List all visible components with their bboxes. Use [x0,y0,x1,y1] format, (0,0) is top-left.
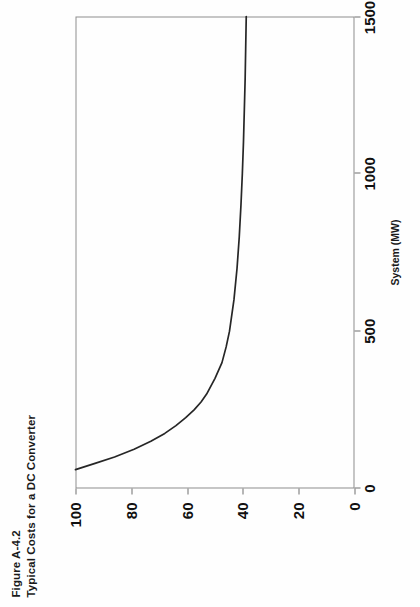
y-tick-40 [242,488,243,494]
x-tick-label-1500: 1500 [360,0,377,33]
y-axis-title: $ per Terminal Size [354,549,420,561]
x-tick-1500 [354,16,360,17]
x-tick-500 [354,330,360,331]
y-tick-100 [75,488,76,494]
scanned-page: Figure A-4.2 Typical Costs for a DC Conv… [0,0,420,607]
y-tick-label-100: 100 [67,502,84,527]
x-tick-1000 [354,172,360,173]
x-tick-label-0: 0 [360,484,377,492]
x-axis-title: System (MW) [388,16,400,488]
y-tick-label-20: 20 [290,502,307,519]
y-tick-label-40: 40 [234,502,251,519]
y-tick-label-80: 80 [122,502,139,519]
cost-curve [75,16,354,488]
figure-caption: Figure A-4.2 Typical Costs for a DC Conv… [8,414,37,597]
y-tick-20 [298,488,299,494]
x-tick-label-1000: 1000 [360,157,377,190]
figure-caption-line-1: Figure A-4.2 [8,414,23,597]
y-tick-label-60: 60 [178,502,195,519]
y-tick-label-0: 0 [346,502,363,510]
x-tick-label-500: 500 [360,318,377,343]
y-tick-60 [187,488,188,494]
y-tick-80 [131,488,132,494]
y-tick-0 [354,488,355,494]
figure-caption-line-2: Typical Costs for a DC Converter [23,414,38,597]
plot-area: 0 500 1000 1500 0 20 40 60 80 100 [75,16,354,488]
cost-curve-path [75,16,246,469]
rotated-figure-block: Figure A-4.2 Typical Costs for a DC Conv… [0,0,420,607]
